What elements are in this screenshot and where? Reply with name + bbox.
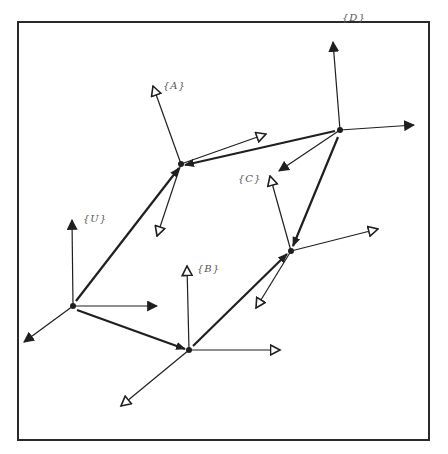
frame-b-z-axis-arrow [121,350,189,406]
frame-label-d: {D} [342,13,366,23]
frame-b-origin-dot [186,347,192,353]
frame-u-z-axis-arrow [24,306,73,342]
frame-c-origin-dot [288,248,294,254]
transform-arrow-u-to-b [77,310,185,349]
transform-arrow-u-to-a [76,168,179,301]
frame-a-z-axis-arrow [157,164,181,236]
frame-label-c: {C} [238,174,261,184]
frame-b-y-axis-arrow [187,266,189,350]
coordinate-frames-diagram [0,0,448,454]
frame-d-origin-dot [337,127,343,133]
frame-axes-layer [24,42,414,406]
frame-c-y-axis-arrow [270,176,291,251]
frame-a-origin-dot [178,161,184,167]
frame-c-x-axis-arrow [291,229,378,251]
transform-arrows-layer [76,131,338,349]
frame-label-b: {B} [197,264,220,274]
frame-u-y-axis-arrow [72,220,73,306]
frame-u-origin-dot [70,303,76,309]
frame-d-y-axis-arrow [333,42,340,130]
frame-label-a: {A} [163,81,186,91]
frame-d-x-axis-arrow [340,125,414,130]
diagram-border [18,22,429,440]
transform-arrow-d-to-c [293,137,338,246]
frame-label-u: {U} [83,214,107,224]
frame-a-y-axis-arrow [153,86,181,164]
